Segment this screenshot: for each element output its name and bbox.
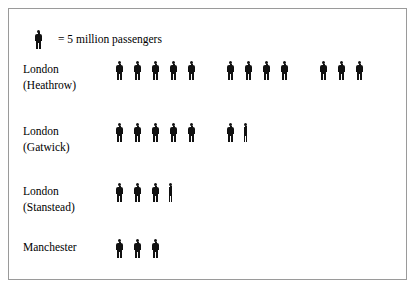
person-icon bbox=[115, 183, 124, 202]
row-label-line1: Manchester bbox=[23, 241, 77, 253]
person-icon-partial bbox=[169, 183, 172, 202]
person-icon bbox=[115, 61, 124, 80]
icon-group bbox=[115, 123, 205, 142]
chart-legend: = 5 million passengers bbox=[34, 28, 162, 50]
person-icon bbox=[226, 61, 235, 80]
person-icon bbox=[319, 61, 328, 80]
icon-group bbox=[115, 239, 169, 258]
row-label-line2: (Gatwick) bbox=[23, 139, 109, 155]
row-label-line2: (Stanstead) bbox=[23, 199, 109, 215]
person-icon bbox=[133, 183, 142, 202]
icon-group bbox=[226, 61, 298, 80]
pictogram-row-gatwick: London (Gatwick) bbox=[23, 123, 405, 171]
pictogram-row-heathrow: London (Heathrow) bbox=[23, 61, 405, 109]
person-icon bbox=[133, 61, 142, 80]
row-label-manchester: Manchester bbox=[23, 239, 109, 255]
person-icon bbox=[226, 123, 235, 142]
pictogram-row-manchester: Manchester bbox=[23, 239, 405, 287]
person-icon bbox=[133, 123, 142, 142]
row-label-line1: London bbox=[23, 63, 59, 75]
person-icon bbox=[151, 123, 160, 142]
icon-group bbox=[115, 61, 205, 80]
legend-person-icon-wrap bbox=[34, 30, 56, 49]
icon-group bbox=[115, 183, 181, 202]
person-icon bbox=[34, 30, 43, 49]
pictogram-row-stanstead: London (Stanstead) bbox=[23, 183, 405, 231]
icon-track-heathrow bbox=[115, 61, 373, 83]
person-icon bbox=[187, 123, 196, 142]
icon-track-stanstead bbox=[115, 183, 181, 205]
icon-group bbox=[319, 61, 373, 80]
icon-group bbox=[226, 123, 256, 142]
person-icon bbox=[169, 123, 178, 142]
person-icon bbox=[244, 61, 253, 80]
row-label-line1: London bbox=[23, 125, 59, 137]
row-label-line1: London bbox=[23, 185, 59, 197]
person-icon bbox=[133, 239, 142, 258]
row-label-gatwick: London (Gatwick) bbox=[23, 123, 109, 155]
person-icon bbox=[280, 61, 289, 80]
row-label-heathrow: London (Heathrow) bbox=[23, 61, 109, 93]
row-label-line2: (Heathrow) bbox=[23, 77, 109, 93]
person-icon bbox=[151, 239, 160, 258]
icon-track-manchester bbox=[115, 239, 169, 261]
person-icon bbox=[337, 61, 346, 80]
person-icon bbox=[355, 61, 364, 80]
person-icon bbox=[151, 183, 160, 202]
row-label-stanstead: London (Stanstead) bbox=[23, 183, 109, 215]
person-icon bbox=[262, 61, 271, 80]
person-icon bbox=[115, 239, 124, 258]
icon-track-gatwick bbox=[115, 123, 256, 145]
person-icon bbox=[169, 61, 178, 80]
legend-label: = 5 million passengers bbox=[58, 33, 162, 46]
person-icon bbox=[115, 123, 124, 142]
person-icon-partial bbox=[244, 123, 247, 142]
person-icon bbox=[187, 61, 196, 80]
person-icon bbox=[151, 61, 160, 80]
pictogram-chart-frame: = 5 million passengers London (Heathrow)… bbox=[8, 8, 407, 280]
